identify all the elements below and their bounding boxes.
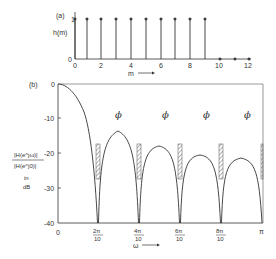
x-tick: 4: [129, 62, 133, 69]
y-tick: -40: [44, 220, 54, 227]
y-label-denominator: |H(e^j0)|: [14, 163, 37, 169]
x-tick: 0: [73, 62, 77, 69]
magnitude-curve: [58, 84, 262, 223]
x-tick: 10: [215, 62, 223, 69]
y-tick: -30: [44, 185, 54, 192]
y-tick: -10: [44, 115, 54, 122]
x-tick: 12: [244, 62, 252, 69]
stems: [74, 18, 250, 60]
y-tick: 0: [51, 81, 55, 88]
y-label-numerator: |H(e^jω)|: [14, 152, 38, 158]
x-tick-num: 2π: [93, 228, 100, 234]
panel-a-stem-plot: (a) 1 h(m) 0 0 2 4 6 8 10 12 m: [53, 12, 252, 77]
y-tick-0: 0: [68, 56, 72, 63]
phi-label: ϕ: [162, 109, 169, 120]
x-tick-den: 10: [217, 236, 224, 242]
y-tick: -20: [44, 150, 54, 157]
y-label-in: in: [24, 175, 29, 181]
arrow-head-icon: [157, 244, 160, 247]
panel-b-magnitude-plot: (b) 0 -10 -20 -30 -40 |H(e^jω)| |H(e^j0)…: [12, 81, 264, 249]
x-tick-num: 6π: [175, 228, 182, 234]
x-tick-num: 8π: [216, 228, 223, 234]
y-label-db: dB: [23, 184, 30, 190]
x-tick-num: 4π: [134, 228, 141, 234]
panel-a-label: (a): [56, 12, 65, 20]
x-tick-den: 10: [176, 236, 183, 242]
arrow-head-icon: [152, 72, 155, 75]
panel-b-label: (b): [29, 81, 38, 89]
x-tick: 2: [99, 62, 103, 69]
x-tick: 6: [159, 62, 163, 69]
x-axis-label: ω: [133, 242, 139, 249]
phi-label: ϕ: [244, 109, 251, 120]
phi-label: ϕ: [203, 109, 210, 120]
x-tick-den: 10: [94, 236, 101, 242]
x-axis-label: m: [128, 70, 134, 77]
y-axis-label: h(m): [53, 29, 67, 37]
x-tick: 0: [56, 229, 60, 236]
x-tick: π: [259, 228, 264, 235]
shaded-bands: [96, 144, 263, 179]
phi-label: ϕ: [115, 109, 122, 120]
x-tick: 8: [188, 62, 192, 69]
figure: (a) 1 h(m) 0 0 2 4 6 8 10 12 m: [0, 0, 276, 259]
